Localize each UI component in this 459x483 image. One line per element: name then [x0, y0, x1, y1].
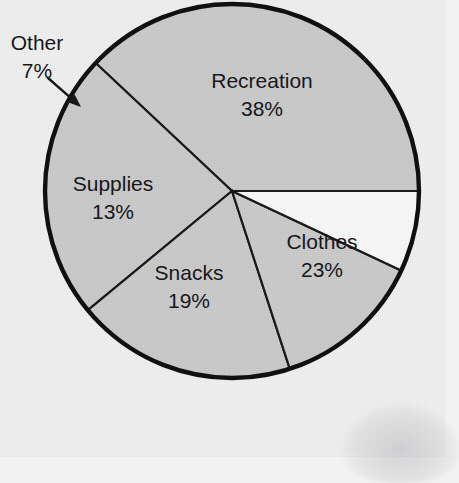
- slice-label-snacks: Snacks: [155, 261, 224, 284]
- slice-value-snacks: 19%: [168, 289, 210, 312]
- slice-value-supplies: 13%: [92, 200, 134, 223]
- slice-label-clothes: Clothes: [286, 230, 357, 253]
- slice-value-clothes: 23%: [301, 258, 343, 281]
- slice-label-recreation: Recreation: [211, 69, 313, 92]
- slice-label-supplies: Supplies: [73, 172, 154, 195]
- slice-label-other: Other: [11, 31, 64, 54]
- slice-value-recreation: 38%: [241, 97, 283, 120]
